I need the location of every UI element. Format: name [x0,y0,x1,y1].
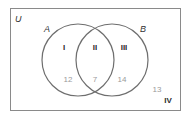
set-a-label: A [43,24,50,34]
region-i-label: I [63,43,65,52]
region-i-value: 12 [64,75,73,84]
region-ii-value: 7 [93,75,98,84]
venn-diagram: U A B I II III IV 12 7 14 13 [0,0,187,115]
region-iv-value: 13 [153,85,162,94]
region-iv-label: IV [164,96,172,105]
universe-label: U [15,14,22,24]
region-ii-label: II [93,43,97,52]
universe-box [11,9,181,111]
region-iii-label: III [121,43,128,52]
set-b-label: B [140,24,146,34]
region-iii-value: 14 [118,75,127,84]
